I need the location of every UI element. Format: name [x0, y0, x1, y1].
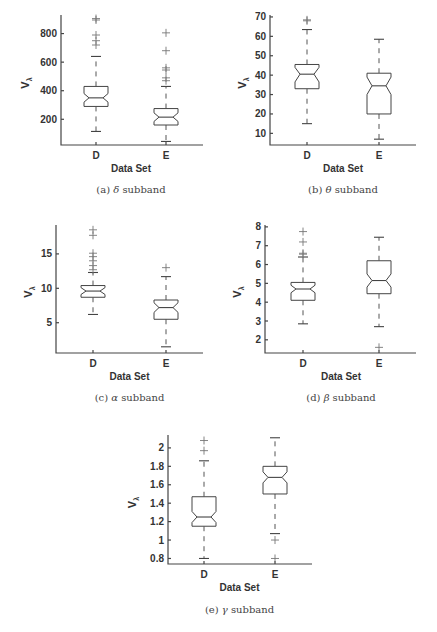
- y-tick-label: 10: [255, 128, 267, 139]
- notched-box: [192, 497, 216, 526]
- notched-box: [367, 261, 391, 294]
- box-E: E: [367, 237, 391, 369]
- outlier-marker: [299, 228, 307, 236]
- y-tick-label: 10: [41, 283, 53, 294]
- y-axis-label: Vλ: [19, 77, 33, 88]
- y-tick-label: 3: [255, 316, 261, 327]
- notched-box: [84, 86, 108, 106]
- boxplot-panel-e: 0.811.21.41.61.82VλDEData Set(e) γ subba…: [126, 435, 312, 615]
- x-tick-label: D: [299, 358, 306, 369]
- x-axis-label: Data Set: [323, 163, 364, 174]
- x-tick-label: D: [89, 358, 96, 369]
- outlier-marker: [303, 16, 311, 24]
- box-D: D: [81, 226, 105, 369]
- outlier-marker: [299, 238, 307, 246]
- notched-box: [154, 300, 178, 319]
- y-tick-label: 5: [255, 278, 261, 289]
- y-tick-label: 8: [255, 221, 261, 232]
- y-tick-label: 5: [46, 317, 52, 328]
- y-axis-label: Vλ: [231, 286, 245, 297]
- axes: [56, 225, 203, 353]
- y-tick-label: 800: [40, 28, 57, 39]
- box-E: E: [367, 39, 391, 161]
- y-tick-label: 40: [255, 70, 267, 81]
- y-tick-label: 60: [255, 31, 267, 42]
- x-tick-label: D: [200, 569, 207, 580]
- y-tick-label: 1.8: [150, 461, 164, 472]
- x-axis-label: Data Set: [111, 163, 152, 174]
- panel-caption: (a) δ subband: [96, 184, 166, 195]
- y-tick-label: 1: [158, 535, 164, 546]
- y-tick-label: 2: [255, 334, 261, 345]
- x-tick-label: D: [303, 150, 310, 161]
- y-tick-label: 6: [255, 259, 261, 270]
- box-D: D: [192, 437, 216, 580]
- x-tick-label: D: [92, 150, 99, 161]
- box-E: E: [263, 438, 287, 580]
- x-tick-label: E: [163, 358, 170, 369]
- y-tick-label: 1.4: [150, 498, 164, 509]
- notched-box: [295, 64, 319, 88]
- outlier-marker: [89, 249, 97, 257]
- y-axis-label: Vλ: [126, 497, 140, 508]
- outlier-marker: [271, 554, 279, 562]
- box-E: E: [154, 29, 178, 161]
- axes: [61, 15, 203, 145]
- y-tick-label: 70: [255, 11, 267, 22]
- outlier-marker: [200, 437, 208, 445]
- x-axis-label: Data Set: [321, 371, 362, 382]
- y-tick-label: 200: [40, 114, 57, 125]
- y-tick-label: 0.8: [150, 553, 164, 564]
- y-tick-label: 4: [255, 297, 261, 308]
- outlier-marker: [162, 47, 170, 55]
- subband-boxplot-figure: 200400600800VλDEData Set(a) δ subband102…: [0, 0, 437, 632]
- y-tick-label: 1.2: [150, 516, 164, 527]
- x-axis-label: Data Set: [109, 371, 150, 382]
- outlier-marker: [299, 249, 307, 257]
- x-tick-label: E: [163, 150, 170, 161]
- outlier-marker: [162, 264, 170, 272]
- y-tick-label: 1.6: [150, 479, 164, 490]
- box-D: D: [84, 15, 108, 161]
- panel-caption: (d) β subband: [306, 392, 376, 403]
- y-tick-label: 7: [255, 240, 261, 251]
- boxplot-panel-b: 10203040506070VλDEData Set(b) θ subband: [236, 11, 416, 195]
- box-D: D: [291, 228, 315, 369]
- y-tick-label: 600: [40, 57, 57, 68]
- x-tick-label: E: [376, 358, 383, 369]
- x-tick-label: E: [272, 569, 279, 580]
- x-tick-label: E: [376, 150, 383, 161]
- notched-box: [367, 73, 391, 114]
- y-tick-label: 50: [255, 50, 267, 61]
- notched-box: [263, 466, 287, 494]
- outlier-marker: [162, 64, 170, 72]
- axes: [270, 15, 416, 145]
- panel-caption: (c) α subband: [95, 392, 165, 403]
- boxplot-panel-c: 51015VλDEData Set(c) α subband: [22, 225, 203, 403]
- y-axis-label: Vλ: [236, 77, 250, 88]
- outlier-marker: [92, 15, 100, 23]
- y-tick-label: 400: [40, 85, 57, 96]
- axes: [168, 435, 312, 564]
- outlier-marker: [162, 29, 170, 37]
- notched-box: [291, 282, 315, 300]
- outlier-marker: [375, 343, 383, 351]
- axes: [265, 225, 416, 353]
- outlier-marker: [89, 226, 97, 234]
- y-tick-label: 2: [158, 442, 164, 453]
- x-axis-label: Data Set: [219, 582, 260, 593]
- panel-caption: (b) θ subband: [308, 184, 378, 195]
- panel-caption: (e) γ subband: [205, 604, 275, 615]
- boxplot-panel-d: 2345678VλDEData Set(d) β subband: [231, 221, 416, 403]
- outlier-marker: [200, 447, 208, 455]
- outlier-marker: [271, 536, 279, 544]
- y-tick-label: 20: [255, 108, 267, 119]
- y-axis-label: Vλ: [22, 286, 36, 297]
- y-tick-label: 15: [41, 248, 53, 259]
- y-tick-label: 30: [255, 89, 267, 100]
- boxplot-panel-a: 200400600800VλDEData Set(a) δ subband: [19, 15, 203, 195]
- outlier-marker: [92, 31, 100, 39]
- box-D: D: [295, 16, 319, 161]
